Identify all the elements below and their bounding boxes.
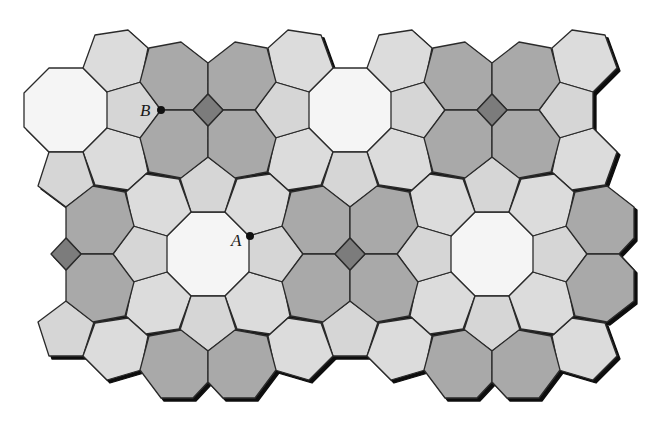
hexagon-tile [367,318,432,380]
point-b-marker [157,106,165,114]
tiling-diagram: A B [0,0,667,422]
hexagon-tile [83,318,148,380]
point-a-marker [246,232,254,240]
point-a-label: A [230,231,242,250]
hexagon-tile [268,318,333,380]
tiles-group [24,30,634,398]
point-b-label: B [140,101,151,120]
